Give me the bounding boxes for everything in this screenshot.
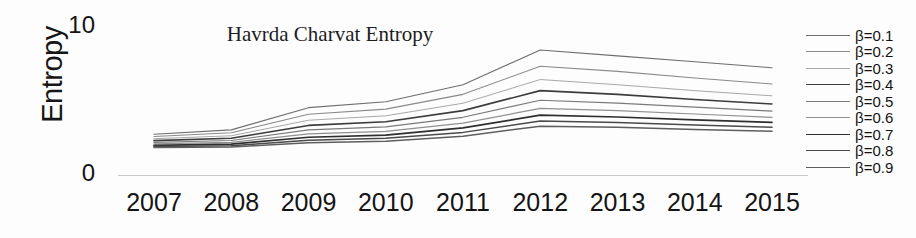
legend-label: β=0.9 [855,160,893,175]
x-axis-tick-2015: 2015 [727,188,817,217]
legend-item-7[interactable]: β=0.8 [806,143,912,160]
legend-line-icon [806,167,850,168]
legend-label: β=0.3 [855,61,893,76]
line-series-2 [154,80,772,139]
legend-label: β=0.8 [855,143,893,158]
legend-line-icon [806,101,850,102]
legend-item-4[interactable]: β=0.5 [806,93,912,110]
x-axis-line [118,175,808,176]
legend-label: β=0.6 [855,110,893,125]
legend-line-icon [806,117,850,118]
legend-line-icon [806,68,850,69]
legend-item-0[interactable]: β=0.1 [806,27,912,44]
x-axis-tick-labels: 200720082009201020112012201320142015 [118,188,808,222]
legend-line-icon [806,35,850,36]
chart-legend: β=0.1β=0.2β=0.3β=0.4β=0.5β=0.6β=0.7β=0.8… [806,27,912,176]
legend-item-6[interactable]: β=0.7 [806,126,912,143]
legend-item-5[interactable]: β=0.6 [806,110,912,127]
legend-line-icon [806,51,850,52]
legend-line-icon [806,134,850,135]
legend-item-8[interactable]: β=0.9 [806,159,912,176]
legend-line-icon [806,84,850,85]
legend-label: β=0.5 [855,94,893,109]
legend-line-icon [806,150,850,151]
legend-label: β=0.4 [855,77,893,92]
legend-label: β=0.2 [855,44,893,59]
legend-label: β=0.1 [855,28,893,43]
legend-item-1[interactable]: β=0.2 [806,44,912,61]
legend-item-2[interactable]: β=0.3 [806,60,912,77]
y-axis-tick-top: 10 [35,11,95,39]
line-series-0 [154,50,772,134]
legend-item-3[interactable]: β=0.4 [806,77,912,94]
legend-label: β=0.7 [855,127,893,142]
chart-title: Havrda Charvat Entropy [180,22,480,47]
chart-figure: Entropy 10 0 Havrda Charvat Entropy 2007… [0,0,916,238]
y-axis-tick-bottom: 0 [35,159,95,187]
